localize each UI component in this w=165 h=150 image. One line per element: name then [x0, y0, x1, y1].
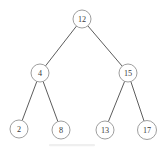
tree-canvas: 12415281317	[0, 0, 165, 150]
tree-node-label: 15	[124, 69, 132, 78]
tree-edge	[108, 81, 124, 121]
tree-edge	[88, 26, 122, 66]
tree-edge	[131, 82, 144, 121]
tree-node-label: 2	[17, 125, 21, 134]
tree-edge	[43, 81, 58, 121]
tree-edge	[22, 81, 37, 120]
tree-node: 13	[96, 121, 114, 139]
tree-node: 4	[31, 64, 49, 82]
tree-node-label: 4	[38, 69, 42, 78]
scan-artifact-smudge	[49, 144, 95, 146]
tree-node-label: 12	[78, 15, 86, 24]
tree-node: 17	[138, 121, 157, 140]
tree-node: 8	[52, 121, 70, 139]
tree-edge	[46, 26, 77, 66]
nodes-group: 12415281317	[10, 10, 157, 140]
binary-search-tree-figure: 12415281317	[0, 0, 165, 150]
tree-node-label: 17	[143, 126, 151, 135]
tree-node-label: 8	[59, 126, 63, 135]
tree-node: 15	[119, 64, 137, 82]
tree-node-label: 13	[101, 126, 109, 135]
tree-node: 12	[73, 10, 91, 28]
tree-node: 2	[10, 120, 28, 138]
